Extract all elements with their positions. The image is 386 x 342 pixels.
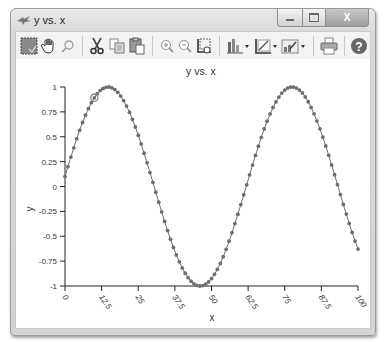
- close-button[interactable]: X: [326, 9, 369, 27]
- data-point[interactable]: [75, 137, 79, 141]
- data-point[interactable]: [174, 253, 178, 257]
- data-point[interactable]: [251, 163, 255, 167]
- data-point[interactable]: [330, 163, 334, 167]
- data-point[interactable]: [210, 277, 214, 281]
- data-point[interactable]: [306, 100, 310, 104]
- data-point[interactable]: [312, 112, 316, 116]
- data-point[interactable]: [298, 88, 302, 92]
- data-point[interactable]: [186, 276, 190, 280]
- data-point[interactable]: [116, 90, 120, 94]
- minimize-button[interactable]: [277, 9, 303, 27]
- data-point[interactable]: [157, 200, 161, 204]
- plot-properties-dropdown[interactable]: [281, 35, 307, 57]
- select-data-button[interactable]: [20, 35, 38, 57]
- data-point[interactable]: [180, 266, 184, 270]
- data-point[interactable]: [353, 239, 357, 243]
- data-point[interactable]: [160, 210, 164, 214]
- data-point[interactable]: [347, 222, 351, 226]
- data-point[interactable]: [350, 231, 354, 235]
- data-point[interactable]: [122, 99, 126, 103]
- data-point[interactable]: [136, 133, 140, 137]
- data-cursor-button[interactable]: [60, 35, 76, 57]
- reset-axes-button[interactable]: [195, 35, 213, 57]
- chart-type-dropdown[interactable]: [225, 35, 251, 57]
- data-point[interactable]: [245, 183, 249, 187]
- maximize-button[interactable]: [303, 9, 326, 27]
- data-point[interactable]: [268, 112, 272, 116]
- data-point[interactable]: [265, 119, 269, 123]
- zoom-in-button[interactable]: [159, 35, 175, 57]
- data-point[interactable]: [356, 247, 360, 251]
- data-point[interactable]: [130, 117, 134, 121]
- data-point[interactable]: [336, 183, 340, 187]
- cut-button[interactable]: [88, 35, 106, 57]
- data-point[interactable]: [218, 262, 222, 266]
- data-point[interactable]: [318, 127, 322, 131]
- data-point[interactable]: [207, 280, 211, 284]
- data-point[interactable]: [177, 260, 181, 264]
- data-point[interactable]: [166, 229, 170, 233]
- data-point[interactable]: [145, 161, 149, 165]
- data-point[interactable]: [113, 88, 117, 92]
- data-point[interactable]: [242, 193, 246, 197]
- data-point[interactable]: [315, 119, 319, 123]
- data-point[interactable]: [84, 113, 88, 117]
- data-point[interactable]: [128, 110, 132, 114]
- data-point[interactable]: [327, 153, 331, 157]
- data-point[interactable]: [344, 212, 348, 216]
- data-point[interactable]: [256, 144, 260, 148]
- pan-button[interactable]: [40, 35, 58, 57]
- paste-button[interactable]: [128, 35, 146, 57]
- data-point[interactable]: [142, 151, 146, 155]
- data-point[interactable]: [78, 128, 82, 132]
- data-point[interactable]: [236, 212, 240, 216]
- chart[interactable]: y vs. x 10.750.50.250-0.25-0.5-0.75-1012…: [16, 59, 372, 329]
- data-point[interactable]: [69, 155, 73, 159]
- data-point[interactable]: [87, 107, 91, 111]
- zoom-out-button[interactable]: [177, 35, 193, 57]
- data-point[interactable]: [259, 135, 263, 139]
- data-point[interactable]: [277, 95, 281, 99]
- data-point[interactable]: [341, 203, 345, 207]
- data-point[interactable]: [72, 146, 76, 150]
- data-point[interactable]: [333, 173, 337, 177]
- data-point[interactable]: [303, 95, 307, 99]
- data-point[interactable]: [230, 231, 234, 235]
- data-point[interactable]: [309, 105, 313, 109]
- data-point[interactable]: [189, 279, 193, 283]
- data-point[interactable]: [154, 190, 158, 194]
- data-point[interactable]: [227, 239, 231, 243]
- plot-area[interactable]: y vs. x 10.750.50.250-0.25-0.5-0.75-1012…: [15, 59, 371, 329]
- data-point[interactable]: [221, 255, 225, 259]
- copy-button[interactable]: [108, 35, 126, 57]
- data-point[interactable]: [321, 135, 325, 139]
- data-point[interactable]: [66, 165, 70, 169]
- data-point[interactable]: [92, 96, 96, 100]
- data-point[interactable]: [148, 171, 152, 175]
- help-button[interactable]: ?: [350, 35, 368, 57]
- data-point[interactable]: [125, 104, 129, 108]
- data-point[interactable]: [248, 173, 252, 177]
- data-point[interactable]: [300, 91, 304, 95]
- data-series[interactable]: [63, 85, 360, 288]
- data-point[interactable]: [119, 94, 123, 98]
- data-point[interactable]: [239, 203, 243, 207]
- data-point[interactable]: [139, 142, 143, 146]
- title-bar[interactable]: y vs. x X: [11, 9, 375, 31]
- data-point[interactable]: [254, 154, 258, 158]
- print-button[interactable]: [320, 35, 338, 57]
- axes-properties-dropdown[interactable]: [253, 35, 279, 57]
- data-point[interactable]: [324, 144, 328, 148]
- data-point[interactable]: [233, 222, 237, 226]
- data-point[interactable]: [163, 220, 167, 224]
- data-point[interactable]: [274, 100, 278, 104]
- data-point[interactable]: [133, 125, 137, 129]
- data-point[interactable]: [262, 127, 266, 131]
- data-point[interactable]: [280, 91, 284, 95]
- data-point[interactable]: [224, 247, 228, 251]
- data-point[interactable]: [63, 175, 67, 179]
- data-point[interactable]: [151, 180, 155, 184]
- data-point[interactable]: [81, 121, 85, 125]
- data-point[interactable]: [183, 271, 187, 275]
- data-point[interactable]: [215, 267, 219, 271]
